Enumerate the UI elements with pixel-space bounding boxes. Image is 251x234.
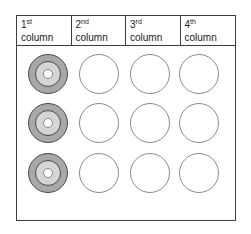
column-header-2: 2nd column [72,16,127,45]
column-label: column [185,31,236,44]
ordinal-suffix: rd [136,18,142,25]
table-header-row: 1st column 2nd column 3rd column 4th col… [17,16,235,46]
column-header-2-ordinal-line: 2nd [76,18,126,31]
target-circle [28,153,68,193]
column-header-3-ordinal-line: 3rd [130,18,180,31]
target-center-dot [43,69,53,79]
empty-circle [79,153,119,193]
column-header-4-ordinal-line: 4th [185,18,236,31]
column-label: column [21,31,71,44]
target-center-dot [43,118,53,128]
column-label: column [130,31,180,44]
column-header-3: 3rd column [126,16,181,45]
column-table-panel: 1st column 2nd column 3rd column 4th col… [16,15,236,221]
column-header-1: 1st column [17,16,72,45]
circle-grid [17,46,235,220]
figure-canvas: 1st column 2nd column 3rd column 4th col… [0,0,251,234]
target-middle-ring [35,61,61,87]
ordinal-suffix: nd [81,18,89,25]
target-middle-ring [35,160,61,186]
empty-circle [179,54,219,94]
empty-circle [79,103,119,143]
empty-circle [179,103,219,143]
empty-circle [130,54,170,94]
empty-circle [179,153,219,193]
column-header-4: 4th column [181,16,236,45]
target-center-dot [43,168,53,178]
ordinal-suffix: st [27,18,32,25]
ordinal-suffix: th [190,18,196,25]
column-header-1-ordinal-line: 1st [21,18,71,31]
empty-circle [130,103,170,143]
target-circle [28,103,68,143]
empty-circle [79,54,119,94]
empty-circle [130,153,170,193]
target-circle [28,54,68,94]
column-label: column [76,31,126,44]
target-middle-ring [35,110,61,136]
